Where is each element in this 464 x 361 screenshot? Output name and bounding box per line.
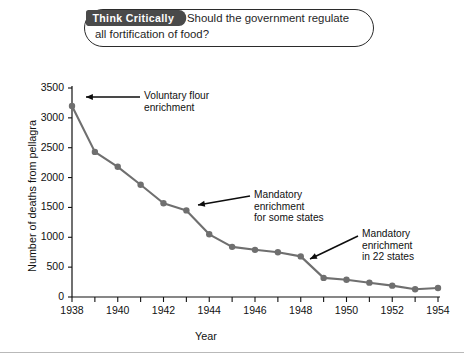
data-point-marker[interactable] xyxy=(137,182,143,188)
annotation-line: enrichment xyxy=(254,201,324,213)
data-point-marker[interactable] xyxy=(206,231,212,237)
x-tick-label: 1944 xyxy=(189,304,229,316)
x-tick-label: 1938 xyxy=(52,304,92,316)
y-tick-label: 2500 xyxy=(24,141,64,153)
annotation-line: for some states xyxy=(254,212,324,224)
x-tick-label: 1954 xyxy=(418,304,458,316)
annotation-mandatory-enrichment-22-states: Mandatoryenrichmentin 22 states xyxy=(362,228,414,263)
annotation-arrow-1-head xyxy=(86,94,93,100)
annotation-arrow-3-line xyxy=(310,236,358,259)
annotation-line: Mandatory xyxy=(254,189,324,201)
annotation-mandatory-enrichment-some-states: Mandatoryenrichmentfor some states xyxy=(254,189,324,224)
y-tick-label: 1500 xyxy=(24,200,64,212)
data-point-marker[interactable] xyxy=(320,275,326,281)
annotation-arrow-2-line xyxy=(198,196,250,205)
annotation-arrow-3 xyxy=(310,236,358,259)
y-tick-label: 2000 xyxy=(24,171,64,183)
pellagra-deaths-line-chart: Number of deaths from pellagra Year 0500… xyxy=(0,0,464,361)
x-tick-label: 1946 xyxy=(235,304,275,316)
x-tick-label: 1942 xyxy=(144,304,184,316)
x-tick-label: 1952 xyxy=(372,304,412,316)
x-tick-label: 1950 xyxy=(327,304,367,316)
annotation-voluntary-flour-enrichment: Voluntary flourenrichment xyxy=(144,90,209,113)
annotation-line: in 22 states xyxy=(362,251,414,263)
annotation-line: enrichment xyxy=(144,102,209,114)
data-point-marker[interactable] xyxy=(115,164,121,170)
data-point-marker[interactable] xyxy=(275,249,281,255)
y-tick-label: 0 xyxy=(24,290,64,302)
annotation-line: Voluntary flour xyxy=(144,90,209,102)
data-point-marker[interactable] xyxy=(183,207,189,213)
annotation-line: Mandatory xyxy=(362,228,414,240)
annotation-arrow-2 xyxy=(198,196,250,207)
data-point-marker[interactable] xyxy=(412,286,418,292)
x-axis-title: Year xyxy=(195,330,217,342)
annotation-arrow-2-head xyxy=(198,201,205,207)
x-tick-label: 1948 xyxy=(281,304,321,316)
data-point-marker[interactable] xyxy=(343,276,349,282)
data-point-marker[interactable] xyxy=(229,244,235,250)
y-tick-label: 500 xyxy=(24,260,64,272)
data-point-marker[interactable] xyxy=(389,282,395,288)
data-point-marker[interactable] xyxy=(160,200,166,206)
data-point-marker[interactable] xyxy=(69,103,75,109)
data-point-marker[interactable] xyxy=(92,149,98,155)
y-tick-label: 3000 xyxy=(24,111,64,123)
annotation-line: enrichment xyxy=(362,240,414,252)
data-point-marker[interactable] xyxy=(298,253,304,259)
data-point-marker[interactable] xyxy=(366,279,372,285)
data-point-marker[interactable] xyxy=(252,247,258,253)
page-bottom-rule xyxy=(0,352,464,353)
y-tick-label: 3500 xyxy=(24,81,64,93)
data-point-marker[interactable] xyxy=(435,285,441,291)
x-tick-label: 1940 xyxy=(98,304,138,316)
y-tick-label: 1000 xyxy=(24,230,64,242)
annotation-arrow-1 xyxy=(86,94,140,100)
